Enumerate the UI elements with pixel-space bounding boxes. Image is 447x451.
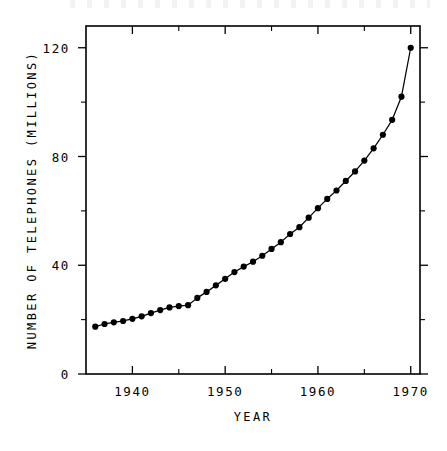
data-point [398, 94, 404, 100]
x-tick-label: 1950 [207, 384, 244, 399]
data-point [296, 224, 302, 230]
data-point [389, 117, 395, 123]
data-point [120, 318, 126, 324]
data-point [185, 302, 191, 308]
data-point [333, 187, 339, 193]
data-point [166, 304, 172, 310]
data-point [213, 282, 219, 288]
data-point [129, 316, 135, 322]
x-axis-tick-labels: 1940195019601970 [114, 384, 429, 399]
data-point [278, 239, 284, 245]
data-point [268, 246, 274, 252]
data-point [361, 157, 367, 163]
scan-artifact [70, 0, 430, 8]
data-point [315, 205, 321, 211]
data-point [306, 215, 312, 221]
telephones-line-chart: 1940195019601970 04080120 YEAR NUMBER OF… [0, 0, 447, 451]
data-point [408, 45, 414, 51]
data-point [250, 259, 256, 265]
data-point [324, 196, 330, 202]
data-point [241, 264, 247, 270]
plot-frame [86, 26, 420, 374]
data-point [380, 132, 386, 138]
data-point [287, 231, 293, 237]
data-point [352, 168, 358, 174]
data-point [101, 321, 107, 327]
y-axis-ticks [78, 48, 428, 374]
data-point [176, 303, 182, 309]
data-point [371, 145, 377, 151]
y-tick-label: 120 [43, 41, 70, 56]
data-point [222, 276, 228, 282]
data-point [92, 324, 98, 330]
x-axis-title: YEAR [234, 410, 273, 424]
x-axis-ticks [132, 26, 410, 374]
chart-figure: 1940195019601970 04080120 YEAR NUMBER OF… [0, 0, 447, 451]
x-tick-label: 1970 [392, 384, 429, 399]
data-point [148, 310, 154, 316]
x-tick-label: 1960 [300, 384, 337, 399]
y-tick-label: 80 [52, 150, 70, 165]
data-point [111, 319, 117, 325]
data-point [194, 295, 200, 301]
data-point [204, 289, 210, 295]
data-point [231, 269, 237, 275]
y-tick-label: 40 [52, 258, 70, 273]
data-point [139, 313, 145, 319]
data-point [259, 253, 265, 259]
y-axis-tick-labels: 04080120 [43, 41, 70, 382]
data-point [343, 178, 349, 184]
x-tick-label: 1940 [114, 384, 151, 399]
data-markers-series-0 [92, 45, 414, 330]
y-tick-label: 0 [61, 367, 70, 382]
data-line-series-0 [95, 48, 410, 327]
y-axis-title: NUMBER OF TELEPHONES (MILLIONS) [25, 51, 39, 349]
data-point [157, 307, 163, 313]
